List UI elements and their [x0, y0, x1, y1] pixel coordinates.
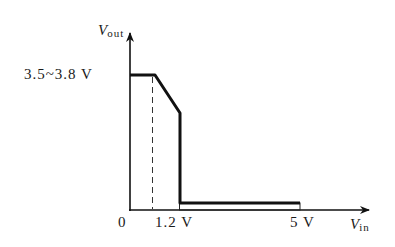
- y-axis-label-sub: out: [107, 27, 124, 39]
- x-tick-origin: 0: [118, 214, 127, 231]
- x-axis-label: Vin: [350, 216, 370, 233]
- x-tick-1-2v: 1.2 V: [155, 214, 193, 231]
- y-axis-label: Vout: [98, 22, 124, 39]
- x-tick-5v: 5 V: [290, 214, 315, 231]
- y-tick-high-level: 3.5~3.8 V: [24, 66, 93, 83]
- y-axis-label-main: V: [98, 22, 107, 38]
- x-axis-label-main: V: [350, 216, 359, 232]
- transfer-curve: [130, 75, 300, 203]
- x-axis-label-sub: in: [359, 221, 370, 233]
- chart-canvas: [0, 0, 395, 247]
